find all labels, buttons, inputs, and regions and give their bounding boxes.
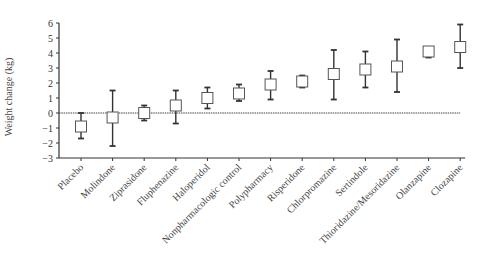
box-placebo xyxy=(76,113,87,139)
mean-marker xyxy=(328,69,339,80)
y-tick-label: −1 xyxy=(42,123,53,134)
mean-marker xyxy=(202,93,213,104)
mean-marker xyxy=(423,46,434,57)
y-axis: 6543210−1−2−3 xyxy=(42,18,59,164)
category-labels: PlaceboMolindoneZiprasidoneFluphenazineH… xyxy=(55,161,465,246)
weight-change-chart: Weight change (kg) 6543210−1−2−3 Placebo… xyxy=(0,0,482,270)
x-axis xyxy=(59,158,465,161)
box-thioridazine-mesoridazine xyxy=(392,40,403,93)
mean-marker xyxy=(455,42,466,53)
y-tick-label: −3 xyxy=(42,153,53,164)
mean-marker xyxy=(265,79,276,90)
mean-marker xyxy=(360,64,371,75)
y-tick-label: 0 xyxy=(48,108,53,119)
category-label: Clozapine xyxy=(428,161,465,198)
mean-marker xyxy=(392,61,403,72)
y-tick-label: 5 xyxy=(48,33,53,44)
box-olanzapine xyxy=(423,46,434,58)
box-ziprasidone xyxy=(139,106,150,121)
box-polypharmacy xyxy=(265,71,276,100)
y-tick-label: 2 xyxy=(48,78,53,89)
y-tick-label: 6 xyxy=(48,18,53,29)
mean-marker xyxy=(139,108,150,119)
y-tick-label: 3 xyxy=(48,63,53,74)
mean-marker xyxy=(297,76,308,87)
box-chlorpromazine xyxy=(328,50,339,100)
y-axis-label: Weight change (kg) xyxy=(3,58,15,137)
box-molindone xyxy=(107,91,118,147)
box-sertindole xyxy=(360,52,371,88)
plot-area xyxy=(76,25,466,147)
y-tick-label: −2 xyxy=(42,138,53,149)
box-risperidone xyxy=(297,76,308,88)
mean-marker xyxy=(76,121,87,132)
mean-marker xyxy=(170,100,181,111)
mean-marker xyxy=(107,112,118,123)
box-haloperidol xyxy=(202,88,213,109)
box-nonpharmacologic-control xyxy=(234,85,245,102)
category-label: Placebo xyxy=(55,162,85,192)
mean-marker xyxy=(234,88,245,99)
y-tick-label: 4 xyxy=(48,48,53,59)
box-clozapine xyxy=(455,25,466,69)
y-tick-label: 1 xyxy=(48,93,53,104)
box-fluphenazine xyxy=(170,91,181,124)
